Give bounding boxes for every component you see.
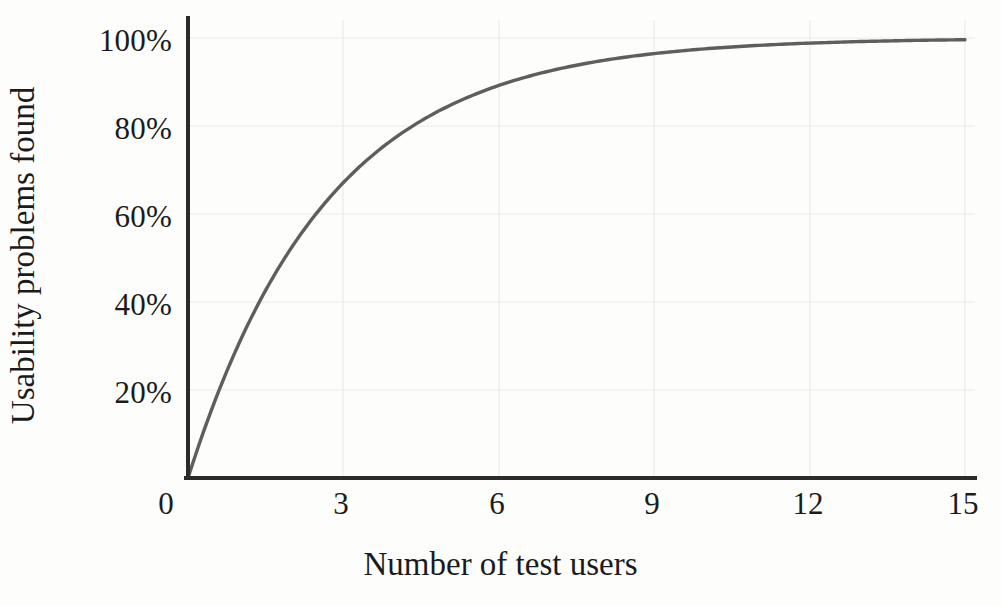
- x-tick-0: 0: [158, 488, 174, 519]
- y-axis-label-wrapper: Usability problems found: [0, 0, 48, 510]
- y-axis-label: Usability problems found: [8, 86, 41, 423]
- x-tick-15: 15: [948, 488, 979, 519]
- x-tick-6: 6: [489, 488, 505, 519]
- x-axis-label: Number of test users: [0, 548, 1001, 581]
- x-tick-9: 9: [644, 488, 660, 519]
- x-tick-3: 3: [333, 488, 349, 519]
- x-tick-labels: 0 3 6 9 12 15: [0, 0, 1001, 606]
- x-tick-12: 12: [793, 488, 824, 519]
- chart-figure: 100% 80% 60% 40% 20% 0 3 6 9 12 15 Numbe…: [0, 0, 1001, 606]
